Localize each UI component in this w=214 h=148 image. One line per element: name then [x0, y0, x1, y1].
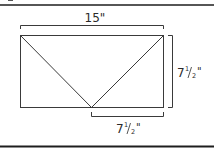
svg-text:7: 7: [177, 66, 185, 80]
svg-text:2: 2: [131, 128, 135, 136]
svg-text:2: 2: [192, 72, 196, 80]
bottom-half-label: 7 1 2 ": [116, 121, 141, 136]
right-diagonal: [92, 36, 164, 108]
svg-text:1: 1: [124, 121, 128, 129]
diagram-canvas: 15" 7 1 2 " 7 1 2 ": [0, 0, 214, 148]
top-dimension-bracket: [21, 26, 164, 30]
right-dimension-bracket: [168, 36, 173, 108]
left-diagonal: [21, 36, 92, 108]
svg-text:": ": [136, 122, 141, 133]
top-width-label: 15": [85, 11, 106, 25]
svg-text:": ": [197, 66, 202, 77]
main-rectangle: [21, 36, 164, 108]
bottom-dimension-bracket: [92, 112, 164, 117]
svg-text:7: 7: [116, 122, 124, 136]
right-height-label: 7 1 2 ": [177, 65, 202, 80]
svg-text:1: 1: [185, 65, 189, 73]
